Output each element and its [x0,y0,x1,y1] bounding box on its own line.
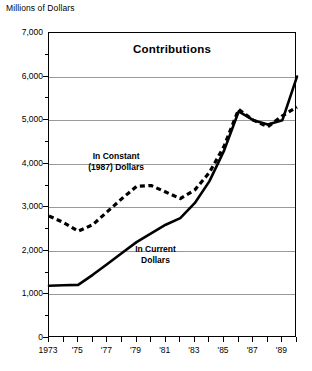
x-tick-mark [77,337,78,342]
y-tick-mark-minor [45,228,49,229]
x-tick-label: '85 [218,345,229,355]
x-tick-mark [252,337,253,342]
x-tick-label: '89 [276,345,287,355]
y-tick-mark [43,250,48,251]
series-label-line: (1987) Dollars [88,162,144,173]
x-tick-mark [136,337,137,342]
y-tick-label: 4,000 [1,158,43,168]
y-tick-mark [43,163,48,164]
x-tick-mark [238,337,239,342]
y-tick-mark-minor [45,315,49,316]
plot-area: Contributions In Constant(1987) DollarsI… [48,32,296,337]
x-tick-mark [106,337,107,342]
x-tick-mark [194,337,195,342]
y-tick-mark-minor [45,97,49,98]
y-tick-label: 5,000 [1,114,43,124]
chart-container: Millions of Dollars Contributions In Con… [0,0,312,371]
series-label-line: Dollars [135,255,176,266]
x-tick-mark [179,337,180,342]
x-tick-label: 1973 [39,345,58,355]
y-tick-label: 3,000 [1,201,43,211]
y-tick-mark [43,293,48,294]
x-tick-mark [63,337,64,342]
y-tick-label: 1,000 [1,288,43,298]
y-axis-title: Millions of Dollars [6,3,75,13]
series-label: In CurrentDollars [135,244,176,266]
series-line [49,107,297,231]
x-tick-mark [296,337,297,342]
y-tick-mark-minor [45,141,49,142]
y-tick-label: 0 [1,332,43,342]
x-tick-label: '77 [101,345,112,355]
y-tick-mark-minor [45,54,49,55]
y-tick-mark [43,206,48,207]
series-label: In Constant(1987) Dollars [88,151,144,173]
series-label-line: In Current [135,244,176,255]
data-lines [49,33,297,338]
series-label-line: In Constant [88,151,144,162]
x-tick-mark [165,337,166,342]
x-tick-mark [150,337,151,342]
y-tick-label: 7,000 [1,27,43,37]
y-tick-mark-minor [45,185,49,186]
x-tick-label: '87 [247,345,258,355]
x-tick-mark [267,337,268,342]
y-tick-mark [43,76,48,77]
y-tick-label: 2,000 [1,245,43,255]
x-tick-mark [208,337,209,342]
x-tick-mark [281,337,282,342]
y-tick-mark [43,119,48,120]
x-tick-mark [223,337,224,342]
x-tick-label: '81 [159,345,170,355]
x-tick-mark [92,337,93,342]
x-tick-mark [48,337,49,342]
x-tick-label: '75 [72,345,83,355]
x-tick-label: '83 [188,345,199,355]
y-tick-mark-minor [45,272,49,273]
chart-title: Contributions [49,43,295,55]
y-tick-label: 6,000 [1,71,43,81]
x-tick-label: '79 [130,345,141,355]
x-tick-mark [121,337,122,342]
